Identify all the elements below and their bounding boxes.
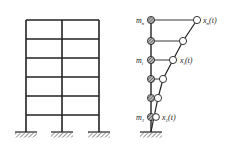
mass-icon xyxy=(147,37,154,44)
lumped-mass-model: mn xn(t) mi xi(t) m1 x1(t) xyxy=(136,16,217,138)
label-mass-1: m1 xyxy=(136,113,144,123)
frame-structure xyxy=(26,20,99,132)
displaced-node-icon xyxy=(179,37,186,44)
mass-n-icon xyxy=(147,16,154,23)
label-disp-n: xn(t) xyxy=(202,16,217,26)
displaced-node-icon xyxy=(154,94,161,101)
diagram-canvas: mn xn(t) mi xi(t) m1 x1(t) xyxy=(0,0,235,155)
fixed-support-icon xyxy=(15,132,37,138)
label-mass-i: mi xyxy=(136,56,144,66)
mass-i-icon xyxy=(147,56,154,63)
frame-supports xyxy=(15,132,110,138)
displaced-node-n-icon xyxy=(193,16,200,23)
label-disp-i: xi(t) xyxy=(179,56,193,66)
fixed-support-icon xyxy=(140,132,162,138)
label-mass-n: mn xyxy=(136,16,145,26)
label-disp-1: x1(t) xyxy=(161,113,176,123)
mass-icon xyxy=(147,75,154,82)
fixed-support-icon xyxy=(88,132,110,138)
displaced-node-1-icon xyxy=(153,114,160,121)
displaced-node-icon xyxy=(159,75,166,82)
displaced-node-i-icon xyxy=(169,56,176,63)
fixed-support-icon xyxy=(51,132,73,138)
mass-icon xyxy=(147,94,154,101)
